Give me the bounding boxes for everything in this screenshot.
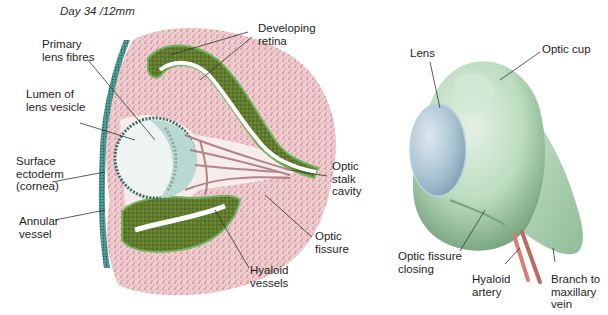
label-annular-vessel: Annular vessel	[19, 215, 59, 240]
label-lumen-of-lens-vesicle: Lumen of lens vesicle	[26, 88, 85, 113]
label-optic-cup: Optic cup	[542, 43, 591, 56]
label-developing-retina: Developing retina	[258, 22, 316, 47]
label-optic-stalk-cavity: Optic stalk cavity	[332, 160, 361, 198]
label-optic-fissure: Optic fissure	[315, 230, 349, 255]
label-hyaloid-artery: Hyaloid artery	[472, 273, 510, 298]
figure: Day 34 /12mm Primary lens fibres Lumen o…	[0, 0, 608, 315]
label-branch-to-maxillary-vein: Branch to maxillary vein	[551, 273, 600, 311]
label-optic-fissure-closing: Optic fissure closing	[398, 250, 462, 275]
label-lens: Lens	[410, 47, 435, 60]
label-primary-lens-fibres: Primary lens fibres	[42, 38, 94, 63]
label-surface-ectoderm: Surface ectoderm (cornea)	[16, 155, 64, 193]
label-hyaloid-vessels: Hyaloid vessels	[250, 264, 288, 289]
section-diagram	[52, 28, 336, 295]
stage-title: Day 34 /12mm	[60, 5, 135, 17]
optic-cup-3d-diagram	[410, 52, 583, 282]
